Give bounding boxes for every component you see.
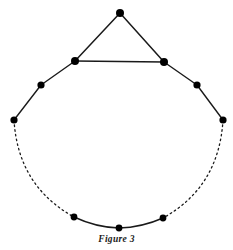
edge-apex-to-base-left (75, 13, 120, 61)
node-upper-right[interactable] (193, 81, 200, 88)
figure-diagram: Figure 3 (0, 0, 233, 250)
edge-far-right-dashed-arc (163, 120, 223, 218)
node-upper-left[interactable] (37, 81, 44, 88)
edge-group-dashed (14, 120, 223, 218)
node-apex[interactable] (116, 9, 124, 17)
node-far-left[interactable] (10, 116, 17, 123)
edge-base-right-to-upper-right (164, 62, 197, 85)
node-base-left[interactable] (71, 57, 79, 65)
edge-base-left-to-upper-left (41, 61, 75, 85)
edge-bottom-left-arc (74, 217, 119, 228)
node-bottom-center[interactable] (116, 225, 123, 232)
figure-caption: Figure 3 (0, 234, 233, 244)
node-base-right[interactable] (160, 58, 168, 66)
node-bottom-right[interactable] (160, 215, 167, 222)
edge-triangle-base (75, 61, 164, 62)
diagram-canvas (0, 0, 233, 250)
edge-far-left-dashed-arc (14, 120, 74, 217)
edge-apex-to-base-right (120, 13, 164, 62)
edge-bottom-right-arc (119, 218, 163, 228)
edge-upper-right-to-far-right (197, 85, 223, 120)
node-bottom-left[interactable] (71, 214, 78, 221)
node-far-right[interactable] (219, 116, 226, 123)
edge-upper-left-to-far-left (14, 85, 41, 120)
node-group (10, 9, 226, 231)
